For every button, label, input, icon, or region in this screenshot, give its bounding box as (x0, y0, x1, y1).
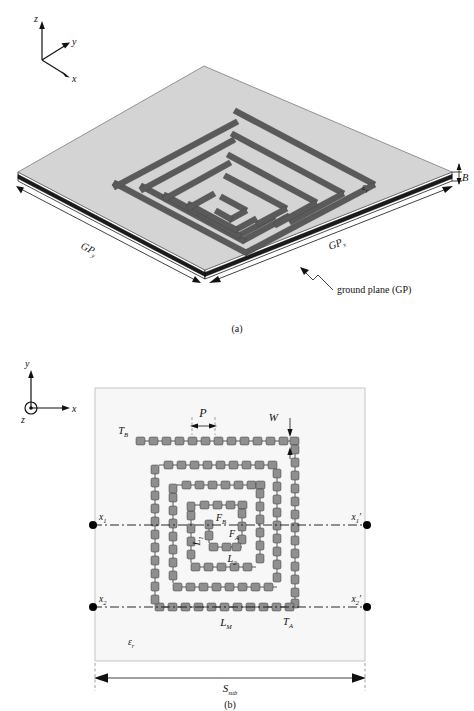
spiral-arm-ring4-right (238, 509, 246, 544)
axis-triad-3d: z y x (33, 13, 77, 84)
caption-panel-b: (b) (224, 699, 236, 711)
axis-label-y-2d: y (24, 358, 30, 369)
axis-label-z: z (33, 13, 38, 24)
axis-label-y: y (71, 36, 77, 47)
label-substrate-size: Ssub (223, 682, 238, 696)
panel-a-diagram: z y x (0, 0, 474, 355)
port-dot-x2-prime (363, 603, 371, 611)
callout-ground-plane: ground plane (GP) (300, 267, 411, 296)
spiral-arm-ring4-left-stub (205, 520, 213, 543)
label-gp-y: GPy (78, 240, 99, 259)
port-dot-x2 (89, 603, 97, 611)
panel-b-diagram: y x z (0, 355, 474, 711)
label-thickness-b: B (462, 172, 469, 183)
label-ground-plane: ground plane (GP) (337, 284, 411, 296)
dimension-thickness-b: B (452, 163, 469, 185)
spiral-arm-ring2-right (273, 469, 281, 582)
spiral-arm-outer-left (151, 465, 159, 604)
axis-label-z-2d: z (20, 414, 25, 425)
dimension-substrate-size: Ssub (94, 663, 366, 696)
label-width-w: W (269, 411, 279, 423)
port-dot-x1 (89, 521, 97, 529)
spiral-arm-ring4-bottom (209, 543, 242, 551)
caption-panel-a: (a) (231, 323, 242, 335)
spiral-arm-ring4-top (195, 501, 247, 509)
label-pitch-p: P (198, 406, 207, 420)
port-dot-x1-prime (363, 521, 371, 529)
axis-label-x-2d: x (71, 403, 77, 414)
axis-label-x: x (71, 73, 77, 84)
spiral-arm-ring3-top (177, 481, 265, 489)
figure-root: z y x (0, 0, 474, 711)
axis-triad-2d: y x z (20, 358, 77, 425)
spiral-arm-ring3-left (187, 502, 195, 563)
substrate-outline (95, 388, 365, 661)
label-gp-x: GPx (327, 236, 347, 254)
